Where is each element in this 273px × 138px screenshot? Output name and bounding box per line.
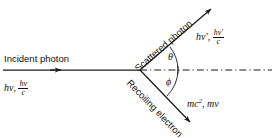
scattered-momentum-denominator: c <box>213 37 224 46</box>
incident-energy-term: hν, <box>4 82 16 93</box>
incident-momentum-denominator: c <box>18 88 28 97</box>
scattered-energy-term: hν′, <box>196 31 210 42</box>
incident-momentum-fraction: hν c <box>18 80 28 97</box>
scattered-momentum-fraction: hν′ c <box>213 29 224 46</box>
theta-angle-label: θ <box>168 52 173 62</box>
recoil-momentum-term: mv <box>207 98 219 109</box>
recoil-electron-quantities: mc2, mv <box>187 98 219 109</box>
scattered-momentum-numerator: hν′ <box>213 29 224 37</box>
scattered-photon-quantities: hν′, hν′ c <box>196 29 224 46</box>
incident-momentum-numerator: hν <box>18 80 28 88</box>
phi-angle-label: ϕ <box>166 77 171 87</box>
compton-scattering-figure: Incident photon hν, hν c Scattered photo… <box>0 0 273 138</box>
recoil-energy-term: mc <box>187 98 199 109</box>
incident-photon-label: Incident photon <box>4 54 69 64</box>
recoil-quantity-separator: , <box>202 98 205 109</box>
incident-photon-quantities: hν, hν c <box>4 80 28 97</box>
